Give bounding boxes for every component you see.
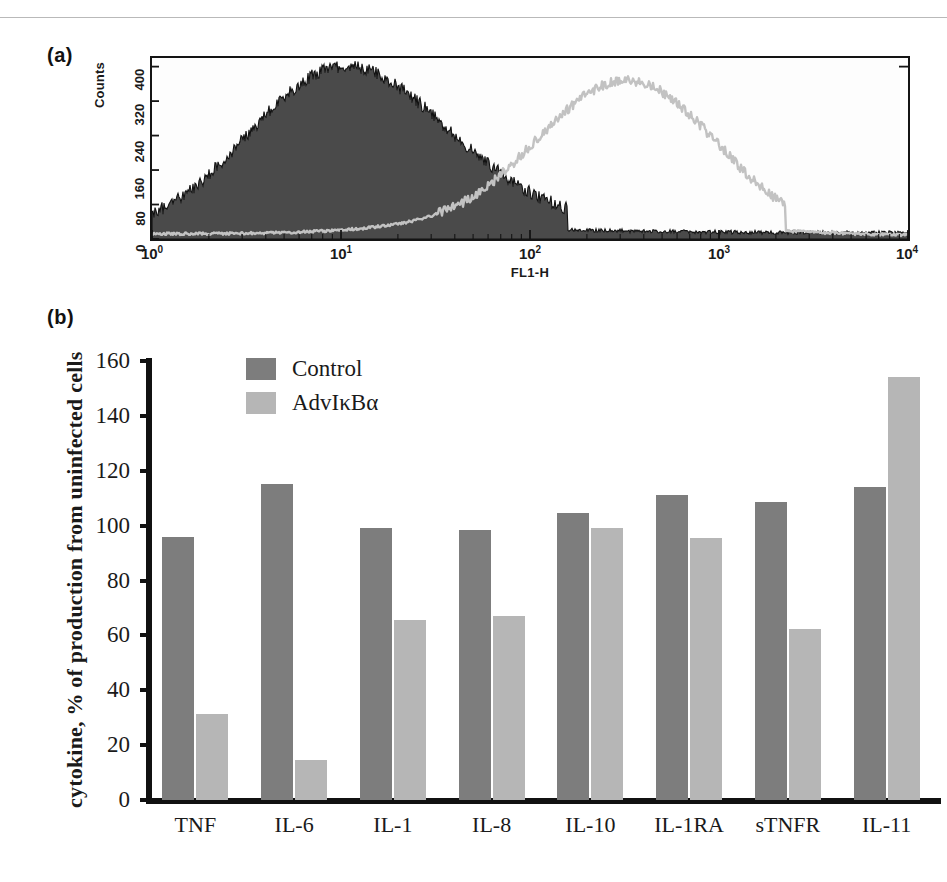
bar-ytick-mark-40 [140, 688, 148, 692]
category-label-tnf: TNF [175, 812, 217, 838]
bar-il8-control [459, 530, 491, 800]
legend-item-advikba: AdvIκBα [246, 386, 378, 420]
bar-il6-advikba [295, 760, 327, 800]
facs-x-axis-label: FL1-H [150, 265, 910, 280]
bar-ytick-mark-80 [140, 579, 148, 583]
bar-il10-advikba [591, 528, 623, 800]
bar-stnfr-control [755, 502, 787, 800]
facs-ytick-80: 80 [133, 211, 148, 225]
bar-ytick-mark-100 [140, 524, 148, 528]
facs-xtick-1e2: 102 [519, 244, 541, 262]
legend-item-control: Control [246, 352, 378, 386]
bar-il1-control [360, 528, 392, 800]
bar-ytick-label-80: 80 [72, 568, 130, 594]
bar-ytick-label-140: 140 [72, 403, 130, 429]
bar-tnf-advikba [196, 714, 228, 800]
category-label-il10: IL-10 [565, 812, 615, 838]
facs-ytick-320: 320 [133, 104, 148, 126]
bar-ytick-mark-160 [140, 359, 148, 363]
category-label-il11: IL-11 [862, 812, 911, 838]
bar-il10-control [557, 513, 589, 800]
bar-ytick-mark-60 [140, 633, 148, 637]
bar-il6-control [261, 484, 293, 800]
panel-a-label: (a) [47, 44, 73, 67]
legend-swatch-advikba [246, 392, 276, 414]
bar-ytick-label-40: 40 [72, 677, 130, 703]
bar-ytick-label-20: 20 [72, 732, 130, 758]
bar-tnf-control [162, 537, 194, 800]
panel-a-facs-histogram: (a) Counts 0 80 160 240 320 400 100 101 … [0, 0, 947, 300]
bar-ytick-label-0: 0 [72, 787, 130, 813]
bar-il1ra-control [656, 495, 688, 800]
category-label-il6: IL-6 [275, 812, 314, 838]
legend-label-control: Control [292, 356, 362, 382]
bar-ytick-label-100: 100 [72, 513, 130, 539]
category-label-il8: IL-8 [472, 812, 511, 838]
facs-xtick-1e3: 103 [708, 244, 730, 262]
bar-ytick-mark-0 [140, 798, 148, 802]
bar-il8-advikba [493, 616, 525, 800]
facs-xtick-1e0: 100 [141, 244, 163, 262]
bar-plot-area [150, 361, 940, 800]
bar-il11-control [854, 487, 886, 800]
category-label-stnfr: sTNFR [755, 812, 820, 838]
facs-ytick-160: 160 [133, 178, 148, 200]
bar-ytick-mark-120 [140, 469, 148, 473]
facs-xtick-1e1: 101 [330, 244, 352, 262]
bar-category-labels: TNFIL-6IL-1IL-8IL-10IL-1RAsTNFRIL-11 [150, 812, 940, 846]
category-label-il1: IL-1 [373, 812, 412, 838]
bar-ytick-label-160: 160 [72, 348, 130, 374]
bar-ytick-mark-20 [140, 743, 148, 747]
facs-ytick-240: 240 [133, 141, 148, 163]
bar-stnfr-advikba [789, 629, 821, 800]
facs-xtick-1e4: 104 [896, 244, 918, 262]
bar-il1-advikba [394, 620, 426, 800]
category-label-il1ra: IL-1RA [654, 812, 724, 838]
bar-y-axis-tick-labels: 020406080100120140160 [72, 0, 130, 882]
bar-il1ra-advikba [690, 538, 722, 800]
legend-label-advikba: AdvIκBα [292, 390, 378, 416]
bar-legend: Control AdvIκBα [246, 352, 378, 420]
facs-ytick-400: 400 [133, 69, 148, 91]
bar-il11-advikba [888, 377, 920, 800]
legend-swatch-control [246, 358, 276, 380]
bar-ytick-label-120: 120 [72, 458, 130, 484]
bar-ytick-label-60: 60 [72, 622, 130, 648]
panel-b-label: (b) [47, 306, 74, 329]
facs-histogram-svg [152, 58, 908, 239]
facs-plot-frame [150, 56, 910, 241]
bar-ytick-mark-140 [140, 414, 148, 418]
